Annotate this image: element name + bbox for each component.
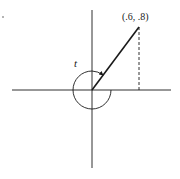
unit-circle-diagram: t (.6, .8) [0,0,180,179]
angle-label: t [74,57,78,69]
stray-mark [2,16,4,18]
terminal-ray [92,27,139,90]
point-label: (.6, .8) [122,11,149,23]
